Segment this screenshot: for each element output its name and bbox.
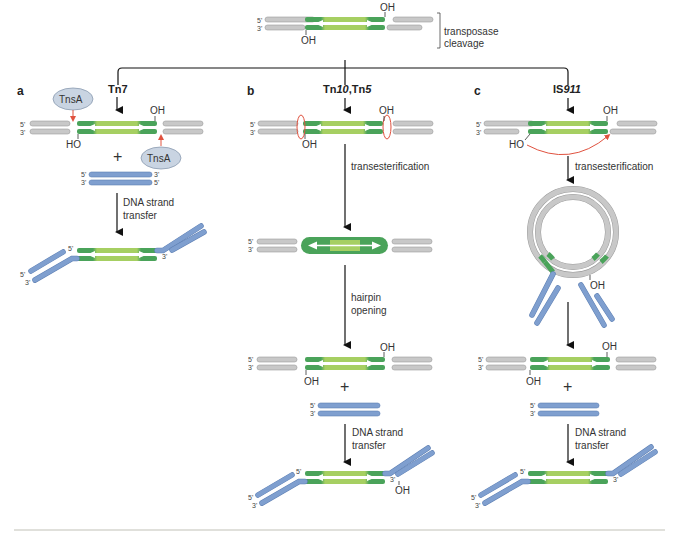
transposon-name: Tn7	[108, 83, 128, 95]
step-label: opening	[351, 305, 387, 316]
oh-label: OH	[302, 139, 317, 150]
transposon-name: Tn10,Tn5	[323, 83, 372, 95]
step-label: transesterification	[351, 161, 429, 172]
panel-c: c IS911 5' 3' OH HO transesterification …	[471, 83, 657, 509]
panel-a: a Tn7 TnsA 5' 3' OH HO + TnsA 5' 3' 3' 5…	[17, 83, 204, 286]
target-dna	[318, 411, 380, 416]
oh-label: OH	[526, 376, 541, 387]
transposon-duplex	[303, 121, 383, 134]
end-label: 5'	[478, 356, 483, 363]
oh-label: OH	[150, 105, 165, 116]
panel-letter: a	[17, 84, 24, 98]
flank-dna	[393, 17, 433, 22]
plus-sign: +	[563, 378, 572, 395]
end-label: 3'	[250, 129, 255, 136]
end-label: 3'	[25, 279, 30, 286]
top-cleavage: 5' 3' OH OH transposase cleavage	[118, 2, 568, 85]
end-label: 5'	[476, 121, 481, 128]
step-label: transfer	[575, 440, 610, 451]
step-label: transfer	[123, 210, 158, 221]
bracket	[437, 13, 440, 48]
step-label: transfer	[352, 440, 387, 451]
end-5-label: 5'	[20, 121, 25, 128]
target-dna	[89, 172, 152, 177]
transposition-diagram: 5' 3' OH OH transposase cleavage a Tn7 T…	[0, 0, 675, 537]
oh-label: OH	[379, 105, 394, 116]
cleavage-label-1: transposase	[444, 26, 499, 37]
end-label: 5'	[471, 494, 476, 501]
end-label: 5'	[310, 402, 315, 409]
panel-b: b Tn10,Tn5 5' 3' OH OH transesterificati…	[247, 83, 433, 509]
transposon-duplex	[77, 121, 157, 134]
tnsa-label: TnsA	[59, 94, 83, 105]
step-label: DNA strand	[575, 427, 626, 438]
ho-label: HO	[509, 139, 524, 150]
plus-sign: +	[113, 148, 122, 165]
target-dna	[318, 403, 380, 408]
target-dna	[89, 180, 152, 185]
end-label: 3'	[476, 129, 481, 136]
step-label: transesterification	[575, 161, 653, 172]
end-label: 5'	[248, 356, 253, 363]
end-label: 3'	[248, 364, 253, 371]
transposon-duplex	[305, 357, 385, 370]
oh-label: OH	[395, 485, 410, 496]
cleavage-label-2: cleavage	[444, 38, 484, 49]
oh-label: OH	[602, 341, 617, 352]
transposon-name: IS911	[553, 83, 581, 95]
transposon-duplex	[77, 248, 157, 261]
end-label: 3'	[252, 502, 257, 509]
end-label: 5'	[530, 402, 535, 409]
oh-label: OH	[380, 342, 395, 353]
red-loop-arrow	[297, 115, 305, 139]
oh-label: OH	[304, 376, 319, 387]
flank-dna	[265, 25, 305, 30]
end-label: 3'	[154, 171, 159, 178]
end-label: 5'	[68, 245, 73, 252]
end-label: 3'	[248, 246, 253, 253]
oh-label: OH	[590, 280, 605, 291]
ho-label: HO	[66, 139, 81, 150]
transposon-duplex	[528, 121, 608, 134]
circle-intermediate: OH	[530, 189, 616, 291]
end-label: 5'	[20, 271, 25, 278]
step-label: hairpin	[351, 292, 381, 303]
panel-letter: c	[474, 84, 481, 98]
end-label: 3'	[81, 179, 86, 186]
step-label: DNA strand	[352, 427, 403, 438]
end-label: 3'	[390, 476, 395, 483]
end-label: 5'	[520, 468, 525, 475]
end-label: 5'	[296, 468, 301, 475]
oh-label: OH	[380, 2, 395, 13]
end-label: 3'	[475, 502, 480, 509]
end-label: 5'	[248, 494, 253, 501]
end-label: 3'	[530, 410, 535, 417]
end-label: 3'	[613, 476, 618, 483]
end-label: 5'	[81, 171, 86, 178]
transposon-duplex	[528, 471, 608, 484]
end-label: 3'	[162, 253, 167, 260]
transposon-duplex	[530, 357, 610, 370]
step-label: DNA strand	[123, 197, 174, 208]
target-dna	[538, 403, 599, 408]
transposon-duplex	[305, 17, 385, 30]
target-dna	[538, 411, 599, 416]
flank-dna	[387, 25, 422, 30]
end-3-label: 3'	[20, 129, 25, 136]
transposon-duplex	[305, 471, 385, 484]
end-label: 3'	[310, 410, 315, 417]
end-label: 5'	[250, 121, 255, 128]
end-label: 5'	[248, 238, 253, 245]
red-attack-arrow	[527, 136, 608, 155]
panel-letter: b	[247, 84, 254, 98]
end-3-label: 3'	[257, 25, 262, 32]
oh-label: OH	[603, 105, 618, 116]
end-label: 5'	[154, 179, 159, 186]
plus-sign: +	[340, 378, 349, 395]
oh-label: OH	[301, 35, 316, 46]
end-5-label: 5'	[257, 17, 262, 24]
tnsa-label: TnsA	[147, 153, 171, 164]
end-label: 3'	[478, 364, 483, 371]
